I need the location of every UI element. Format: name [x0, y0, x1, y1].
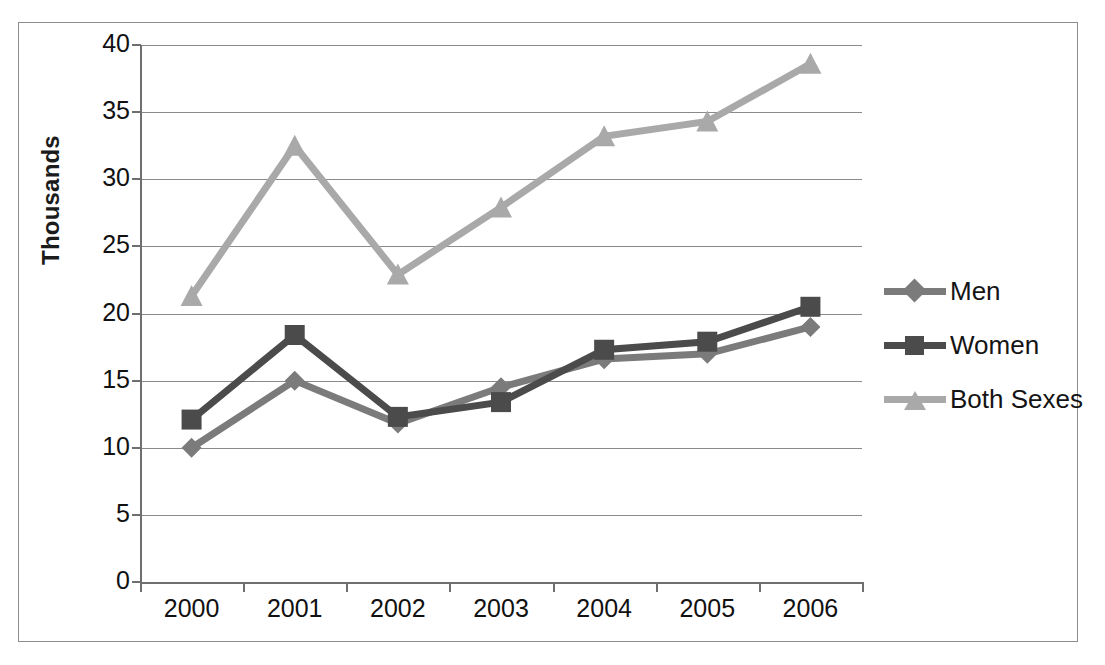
x-axis-tick: [346, 582, 348, 592]
y-axis-tick: [132, 313, 141, 315]
y-axis-tick: [132, 380, 141, 382]
x-axis-tick: [759, 582, 761, 592]
legend-label-both-sexes: Both Sexes: [950, 386, 1083, 412]
legend-swatch-men: [884, 281, 946, 301]
chart-screenshot: Thousands 0510152025303540 2000200120022…: [0, 0, 1105, 665]
legend-swatch-both-sexes: [884, 389, 946, 409]
series-line: [192, 64, 811, 296]
data-point-marker: [697, 332, 717, 352]
legend-item-both-sexes[interactable]: Both Sexes: [884, 372, 1084, 426]
legend-swatch-women: [884, 335, 946, 355]
x-axis-tick: [140, 582, 142, 592]
y-axis-tick: [132, 245, 141, 247]
legend-label-men: Men: [950, 278, 1001, 304]
data-point-marker: [182, 410, 202, 430]
x-axis-tick: [553, 582, 555, 592]
series-women: [182, 297, 821, 430]
data-point-marker: [800, 297, 820, 317]
data-point-marker: [799, 53, 821, 74]
chart-legend: Men Women Both Sexes: [884, 264, 1084, 426]
y-axis-tick: [132, 44, 141, 46]
x-axis-tick: [449, 582, 451, 592]
diamond-marker-icon: [902, 278, 926, 302]
triangle-marker-icon: [904, 391, 926, 410]
data-point-marker: [285, 325, 305, 345]
y-axis-tick: [132, 447, 141, 449]
legend-item-men[interactable]: Men: [884, 264, 1084, 318]
x-axis-tick: [656, 582, 658, 592]
data-point-marker: [491, 392, 511, 412]
data-point-marker: [800, 317, 820, 337]
square-marker-icon: [905, 336, 924, 355]
y-axis-tick: [132, 111, 141, 113]
y-axis-tick: [132, 178, 141, 180]
x-axis-tick: [862, 582, 864, 592]
x-axis-tick: [243, 582, 245, 592]
y-axis-tick: [132, 514, 141, 516]
series-both-sexes: [181, 53, 822, 306]
data-point-marker: [388, 407, 408, 427]
data-point-marker: [594, 340, 614, 360]
data-point-marker: [284, 135, 306, 156]
legend-item-women[interactable]: Women: [884, 318, 1084, 372]
legend-label-women: Women: [950, 332, 1039, 358]
